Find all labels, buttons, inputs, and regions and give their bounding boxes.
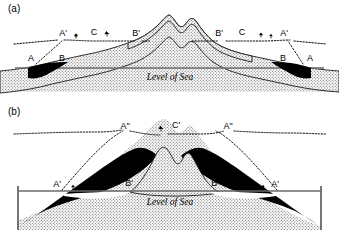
panel-b-drawing: A' C B' A" C' A" B' C A' Level of Sea: [0, 104, 339, 234]
label-cprime-mid: C': [172, 120, 180, 130]
panel-a-sea-level-text: Level of Sea: [146, 72, 194, 82]
label-aprime-right: A': [271, 179, 279, 189]
label-c-right: C: [235, 178, 242, 188]
panel-a-label: (a): [8, 3, 20, 14]
panel-b-label: (b): [8, 106, 20, 117]
label-bprime-left: B': [125, 178, 133, 188]
geology-cross-section-figure: (a): [0, 0, 339, 234]
label-c-left: C: [91, 27, 98, 37]
label-c-left: C: [92, 178, 99, 188]
label-bprime-right: B': [215, 28, 223, 38]
panel-a-drawing: A A' B C B' B' C A' B A Level of Sea: [0, 0, 339, 104]
label-c-right: C: [239, 27, 246, 37]
label-aprime-left: A': [59, 28, 67, 38]
label-aprime-left: A': [53, 179, 61, 189]
label-a-right: A: [307, 53, 313, 63]
panel-b-sea-level-text: Level of Sea: [146, 197, 194, 207]
label-adprime-left: A": [120, 121, 129, 131]
panel-b: (b): [0, 104, 339, 234]
label-b-left: B: [59, 53, 65, 63]
label-adprime-right: A": [223, 121, 232, 131]
label-bprime-left: B': [132, 28, 140, 38]
label-bprime-right: B': [211, 178, 219, 188]
label-b-right: B: [280, 53, 286, 63]
panel-a: (a): [0, 0, 339, 104]
label-aprime-right: A': [280, 28, 288, 38]
label-a-left: A: [28, 53, 34, 63]
